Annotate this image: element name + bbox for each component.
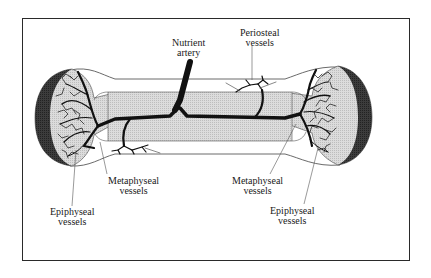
- long-bone-blood-supply-diagram: [0, 0, 431, 278]
- label-epiphyseal-left: Epiphyseal vessels: [50, 207, 94, 227]
- label-epiphyseal-right: Epiphyseal vessels: [270, 206, 314, 226]
- label-metaphyseal-left: Metaphyseal vessels: [108, 176, 159, 196]
- label-periosteal-vessels: Periosteal vessels: [240, 28, 279, 48]
- label-nutrient-artery: Nutrient artery: [172, 38, 205, 58]
- label-metaphyseal-right: Metaphyseal vessels: [232, 176, 283, 196]
